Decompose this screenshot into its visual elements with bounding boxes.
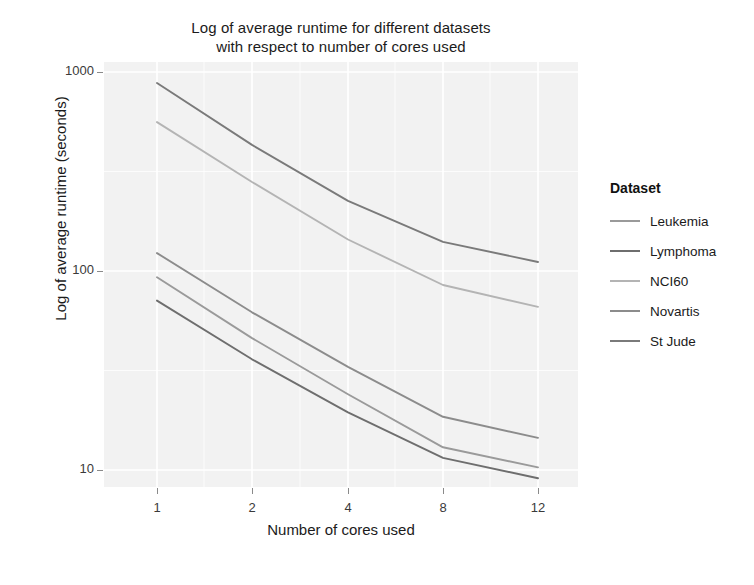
x-tick-label-4: 4 [328, 500, 368, 515]
chart-title: Log of average runtime for different dat… [104, 18, 578, 56]
y-tick-label-100: 100 [72, 262, 94, 277]
x-tick-mark-4 [348, 488, 349, 494]
chart-title-line-2: with respect to number of cores used [104, 37, 578, 56]
plot-panel [104, 62, 578, 487]
x-tick-mark-8 [443, 488, 444, 494]
legend-items: LeukemiaLymphomaNCI60NovartisSt Jude [608, 206, 748, 356]
x-tick-mark-2 [252, 488, 253, 494]
x-tick-mark-12 [538, 488, 539, 494]
legend-line-swatch-icon [608, 302, 642, 320]
panel-background [104, 62, 578, 487]
legend-label: NCI60 [650, 274, 688, 289]
x-tick-label-1: 1 [137, 500, 177, 515]
y-tick-mark-100 [97, 271, 103, 272]
legend-label: Leukemia [650, 214, 709, 229]
legend-item-leukemia[interactable]: Leukemia [608, 206, 748, 236]
legend-title: Dataset [608, 180, 748, 196]
y-tick-mark-1000 [97, 72, 103, 73]
legend-item-nci60[interactable]: NCI60 [608, 266, 748, 296]
legend-line-swatch-icon [608, 332, 642, 350]
x-tick-label-12: 12 [518, 500, 558, 515]
legend-label: Lymphoma [650, 244, 716, 259]
y-tick-label-1000: 1000 [65, 63, 94, 78]
legend-label: St Jude [650, 334, 696, 349]
x-tick-mark-1 [157, 488, 158, 494]
legend-line-swatch-icon [608, 272, 642, 290]
legend-item-st-jude[interactable]: St Jude [608, 326, 748, 356]
chart-figure: Log of average runtime for different dat… [0, 0, 754, 585]
chart-title-line-1: Log of average runtime for different dat… [104, 18, 578, 37]
x-axis-title: Number of cores used [104, 521, 578, 538]
legend: Dataset LeukemiaLymphomaNCI60NovartisSt … [608, 180, 748, 356]
legend-line-swatch-icon [608, 212, 642, 230]
legend-item-novartis[interactable]: Novartis [608, 296, 748, 326]
plot-area [104, 62, 578, 487]
legend-line-swatch-icon [608, 242, 642, 260]
legend-label: Novartis [650, 304, 700, 319]
y-tick-label-10: 10 [80, 461, 94, 476]
legend-item-lymphoma[interactable]: Lymphoma [608, 236, 748, 266]
x-tick-label-2: 2 [232, 500, 272, 515]
x-tick-label-8: 8 [423, 500, 463, 515]
y-tick-mark-10 [97, 470, 103, 471]
